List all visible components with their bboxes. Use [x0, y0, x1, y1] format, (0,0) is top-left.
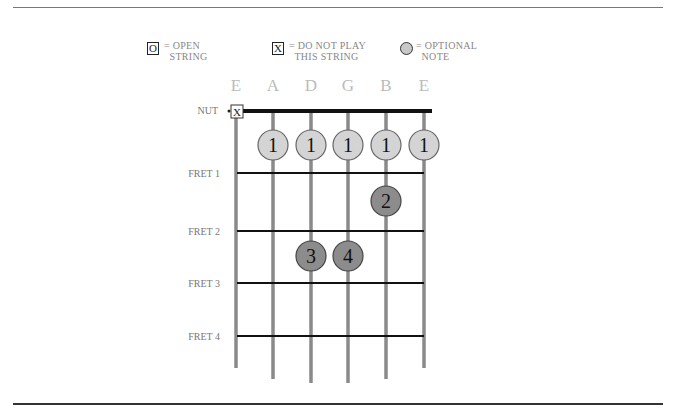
muted-x-icon: X — [233, 106, 241, 118]
optional-notes: 1 1 1 1 1 — [258, 130, 439, 160]
note-high-e-finger: 1 — [419, 134, 429, 156]
note-g-fret-3-finger: 4 — [343, 245, 353, 267]
note-g-finger: 1 — [343, 134, 353, 156]
note-d-finger: 1 — [306, 134, 316, 156]
nut-marker-dot — [228, 110, 231, 113]
note-d-fret-3-finger: 3 — [306, 245, 316, 267]
note-b-fret-2-finger: 2 — [381, 190, 391, 212]
note-b-finger: 1 — [381, 134, 391, 156]
fretboard: X 1 1 1 1 1 2 3 4 — [0, 0, 675, 408]
note-a-finger: 1 — [268, 134, 278, 156]
bottom-rule — [13, 403, 663, 405]
